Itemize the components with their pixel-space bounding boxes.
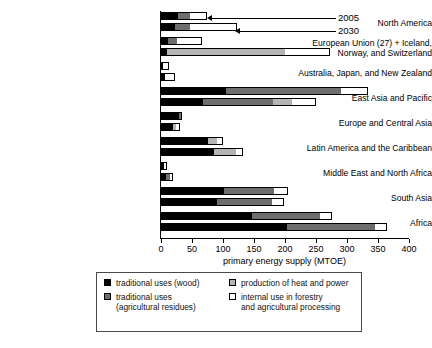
- x-tick-100: [223, 239, 224, 243]
- legend-label-agri-1: traditional uses: [116, 292, 172, 302]
- category-label-line: South Asia: [276, 193, 432, 203]
- bar-segment-wood: [161, 198, 217, 206]
- bar-segment-internal: [236, 148, 243, 156]
- bar-segment-wood: [161, 123, 173, 131]
- callout-label-2005: 2005: [338, 12, 359, 23]
- category-label: Australia, Japan, and New Zealand: [276, 68, 432, 78]
- x-tick-label-400: 400: [394, 244, 424, 254]
- bar-segment-internal: [217, 137, 223, 145]
- legend-swatch-heat: [229, 279, 236, 286]
- bar-segment-agri: [168, 37, 177, 45]
- callout-line-2030: [240, 31, 336, 32]
- bar-segment-internal: [163, 62, 169, 70]
- callout-line-2005: [212, 18, 336, 19]
- bar-2030: [161, 123, 180, 131]
- bar-segment-wood: [161, 187, 224, 195]
- bar-2005: [161, 187, 288, 195]
- bar-2030: [161, 23, 237, 31]
- x-tick-label-200: 200: [270, 244, 300, 254]
- category-label-line: East Asia and Pacific: [276, 93, 432, 103]
- bar-segment-heat: [208, 137, 217, 145]
- x-tick-label-250: 250: [301, 244, 331, 254]
- bar-segment-internal: [170, 173, 173, 181]
- x-tick-label-0: 0: [146, 244, 176, 254]
- legend-swatch-internal: [229, 293, 236, 300]
- legend-swatch-wood: [104, 279, 111, 286]
- legend-swatch-agri: [104, 293, 111, 300]
- category-label: Latin America and the Caribbean: [276, 143, 432, 153]
- x-tick-400: [409, 239, 410, 243]
- legend-item-agri: traditional uses (agricultural residues): [104, 292, 224, 312]
- bar-segment-wood: [161, 98, 203, 106]
- category-label-line: Africa: [276, 218, 432, 228]
- category-label-line: Australia, Japan, and New Zealand: [276, 68, 432, 78]
- bar-2005: [161, 37, 202, 45]
- category-label: Africa: [276, 218, 432, 228]
- category-label-line: Latin America and the Caribbean: [276, 143, 432, 153]
- bar-segment-internal: [165, 73, 174, 81]
- x-tick-label-350: 350: [363, 244, 393, 254]
- x-tick-350: [378, 239, 379, 243]
- legend-item-heat: production of heat and power: [229, 278, 359, 288]
- category-label: Europe and Central Asia: [276, 118, 432, 128]
- chart-legend: traditional uses (wood) traditional uses…: [96, 272, 362, 332]
- bar-segment-wood: [161, 148, 214, 156]
- x-tick-label-50: 50: [177, 244, 207, 254]
- bar-segment-wood: [161, 23, 175, 31]
- chart-figure: North AmericaEuropean Union (27) + Icela…: [0, 0, 432, 348]
- bar-segment-heat: [214, 148, 236, 156]
- bar-2005: [161, 162, 167, 170]
- bar-2005: [161, 137, 223, 145]
- legend-column-left: traditional uses (wood) traditional uses…: [104, 278, 224, 316]
- x-tick-200: [285, 239, 286, 243]
- category-label-line: Europe and Central Asia: [276, 118, 432, 128]
- category-label: Middle East and North Africa: [276, 168, 432, 178]
- plot-area: North AmericaEuropean Union (27) + Icela…: [0, 0, 432, 260]
- bar-segment-wood: [161, 212, 252, 220]
- bar-segment-wood: [161, 37, 168, 45]
- legend-item-wood: traditional uses (wood): [104, 278, 224, 288]
- bar-segment-agri: [178, 12, 189, 20]
- x-tick-250: [316, 239, 317, 243]
- legend-item-internal: internal use in forestry and agricultura…: [229, 292, 359, 312]
- bar-2030: [161, 73, 175, 81]
- bar-segment-agri: [203, 98, 273, 106]
- bar-2030: [161, 198, 284, 206]
- bar-segment-internal: [190, 12, 208, 20]
- x-tick-label-150: 150: [239, 244, 269, 254]
- bar-segment-agri: [179, 112, 182, 120]
- bar-segment-agri: [224, 187, 274, 195]
- bar-segment-internal: [176, 123, 180, 131]
- x-tick-label-300: 300: [332, 244, 362, 254]
- bar-2030: [161, 148, 243, 156]
- legend-label-internal-1: internal use in forestry: [241, 292, 323, 302]
- legend-label-wood: traditional uses (wood): [116, 278, 199, 288]
- category-label-line: Norway, and Switzerland: [276, 48, 432, 58]
- bar-segment-agri: [175, 23, 189, 31]
- bar-segment-agri: [217, 198, 272, 206]
- x-axis-title: primary energy supply (MTOE): [160, 256, 409, 266]
- callout-label-2030: 2030: [338, 25, 359, 36]
- callout-arrow-2030: [235, 28, 240, 34]
- legend-label-heat: production of heat and power: [241, 278, 348, 288]
- bar-segment-internal: [177, 37, 202, 45]
- bar-2005: [161, 112, 182, 120]
- bar-segment-wood: [161, 12, 178, 20]
- x-tick-300: [347, 239, 348, 243]
- x-tick-0: [161, 239, 162, 243]
- bar-segment-internal: [190, 23, 237, 31]
- legend-label-agri-2: (agricultural residues): [116, 302, 224, 312]
- category-label: South Asia: [276, 193, 432, 203]
- legend-label-internal-2: and agricultural processing: [241, 302, 359, 312]
- bar-2005: [161, 12, 208, 20]
- bar-segment-wood: [161, 112, 179, 120]
- bar-segment-wood: [161, 87, 226, 95]
- x-tick-50: [192, 239, 193, 243]
- category-label: European Union (27) + Iceland,Norway, an…: [276, 38, 432, 58]
- bar-segment-wood: [161, 223, 287, 231]
- category-label: East Asia and Pacific: [276, 93, 432, 103]
- x-tick-150: [254, 239, 255, 243]
- bar-segment-heat: [167, 48, 285, 56]
- bar-segment-wood: [161, 137, 208, 145]
- bar-segment-internal: [164, 162, 166, 170]
